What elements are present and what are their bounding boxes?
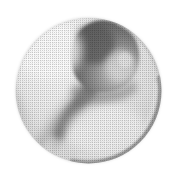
figure-container: Light gray circular disc containing a da… [0, 0, 176, 178]
bulb-specular-glint [118, 52, 132, 68]
halftone-sphere-figure [0, 0, 176, 178]
